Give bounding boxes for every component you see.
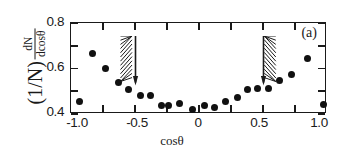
x-minor-tick-2 <box>230 105 232 112</box>
y-major-tick-2 <box>71 22 78 24</box>
x-minor-tick-top-3 <box>294 23 296 30</box>
data-point-0-1 <box>89 50 96 57</box>
x-tick-label-4: 1.0 <box>299 115 339 130</box>
x-major-tick-1 <box>134 105 136 112</box>
x-minor-tick-3 <box>294 105 296 112</box>
y-tick-label-0: 0.8 <box>30 14 64 29</box>
data-point-0-9 <box>176 100 183 107</box>
x-axis-label: cosθ <box>0 133 344 149</box>
y-major-tick-right-2 <box>318 22 325 24</box>
data-point-0-20 <box>304 55 311 62</box>
x-minor-tick-0 <box>102 105 104 112</box>
data-point-0-14 <box>234 94 241 101</box>
x-major-tick-top-1 <box>134 23 136 30</box>
x-tick-label-2: 0 <box>178 115 218 130</box>
x-major-tick-3 <box>262 105 264 112</box>
data-point-0-21 <box>320 101 327 108</box>
panel-label: (a) <box>301 25 317 41</box>
x-major-tick-2 <box>198 105 200 112</box>
data-point-0-11 <box>201 102 208 109</box>
left-cut-arrow-icon <box>120 36 139 92</box>
right-cut-arrow-svg <box>261 36 280 92</box>
data-point-0-2 <box>102 65 109 72</box>
data-point-0-8 <box>165 102 172 109</box>
y-axis-label-numerator: dN <box>23 34 35 52</box>
y-minor-tick-0 <box>71 90 78 92</box>
x-minor-tick-top-0 <box>102 23 104 30</box>
x-minor-tick-top-1 <box>166 23 168 30</box>
x-tick-label-3: 0.5 <box>239 115 279 130</box>
plot-area: (a) <box>70 22 326 113</box>
data-point-0-5 <box>137 92 144 99</box>
figure-panel-a: (1/N) dN dcosθ 0.8 0.6 0.4 -1.0 -0.5 0 0… <box>0 0 344 157</box>
data-point-0-10 <box>189 106 196 113</box>
y-major-tick-right-0 <box>318 113 325 115</box>
y-minor-tick-right-0 <box>318 90 325 92</box>
y-minor-tick-right-1 <box>318 45 325 47</box>
y-major-tick-right-1 <box>318 68 325 70</box>
y-axis-label-denominator: dcosθ <box>35 28 48 59</box>
plot-inner <box>71 23 325 112</box>
data-point-0-0 <box>76 98 83 105</box>
data-point-0-19 <box>288 71 295 78</box>
right-cut-arrow-icon <box>261 36 280 92</box>
x-tick-label-1: -0.5 <box>117 115 157 130</box>
data-point-0-12 <box>211 104 218 111</box>
y-major-tick-1 <box>71 68 78 70</box>
x-major-tick-top-3 <box>262 23 264 30</box>
y-axis-label-fraction: dN dcosθ <box>23 28 48 59</box>
y-major-tick-0 <box>71 113 78 115</box>
x-tick-label-0: -1.0 <box>57 115 97 130</box>
data-point-0-15 <box>244 86 251 93</box>
x-minor-tick-top-2 <box>230 23 232 30</box>
y-tick-label-1: 0.6 <box>30 59 64 74</box>
data-point-0-6 <box>147 92 154 99</box>
left-cut-arrow-svg <box>120 36 139 92</box>
y-minor-tick-1 <box>71 45 78 47</box>
x-major-tick-top-2 <box>198 23 200 30</box>
data-point-0-13 <box>222 98 229 105</box>
